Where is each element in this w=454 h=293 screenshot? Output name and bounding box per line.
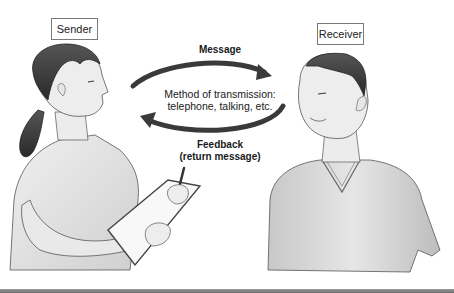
channel-description: Method of transmission: telephone, talki…: [150, 88, 290, 112]
message-label: Message: [180, 44, 260, 55]
feedback-subtitle: (return message): [170, 151, 270, 163]
receiver-label-box: Receiver: [317, 23, 364, 45]
communication-diagram: Sender Receiver Message Method of transm…: [0, 0, 454, 293]
receiver-label: Receiver: [319, 28, 362, 40]
feedback-label: Feedback (return message): [170, 139, 270, 163]
bottom-border: [0, 289, 454, 293]
receiver-figure: [268, 53, 440, 272]
sender-label-box: Sender: [51, 18, 98, 40]
channel-line-1: Method of transmission:: [150, 88, 290, 100]
feedback-title: Feedback: [170, 139, 270, 151]
sender-label: Sender: [57, 23, 92, 35]
message-arrow: [133, 63, 272, 86]
channel-line-2: telephone, talking, etc.: [150, 100, 290, 112]
